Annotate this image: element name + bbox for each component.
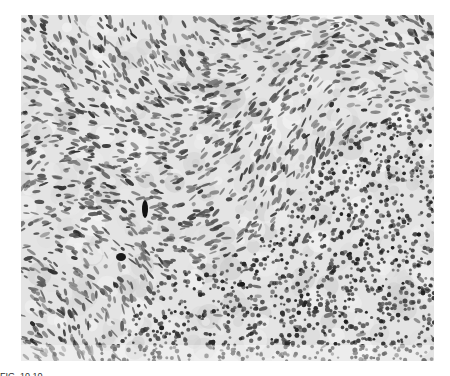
micrograph-image bbox=[21, 15, 434, 361]
tissue-texture bbox=[21, 15, 434, 361]
figure-caption: FIG. 10.10 bbox=[0, 371, 43, 376]
